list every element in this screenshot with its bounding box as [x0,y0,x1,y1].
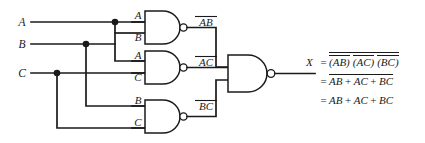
equation-3-term-3: BC [379,95,393,106]
input-label-c: C [18,67,26,79]
nand3-output-label: BC [199,100,214,112]
equation-2-term-2: AC [354,76,368,87]
nand2-input-label-c: C [134,71,142,83]
equation-1-term-1: (AB) [329,57,350,68]
equation-relation-3: = [318,95,329,106]
nand1-output-label: AB [198,16,213,28]
equation-3-operator-2: + [368,94,379,106]
nand2-output-label: AC [198,56,214,68]
nand2-body [145,51,180,84]
nand1-body [145,11,180,44]
equation-1-outer-overbar: (AB)(AC)(BC) [329,57,399,68]
equation-3-operator-1: + [342,94,353,106]
nand3-input-label-c: C [134,116,142,128]
junction-dot-c [54,70,61,77]
nand2-input-label-a: A [134,49,142,61]
equation-3-term-1: AB [329,95,342,106]
equation-lhs-x: X [306,57,318,68]
input-label-a: A [17,16,26,28]
equation-2-outer-overbar: AB+AC+BC [329,76,393,87]
input-label-b: B [18,38,25,50]
nand3-body [145,100,180,133]
equation-1-term-2: (AC) [353,57,374,68]
equation-3-expression: AB+AC+BC [329,95,393,106]
logic-circuit-figure: A B C A B AB A [0,0,425,143]
nand2-inversion-bubble [180,64,187,71]
equation-2-operator-2: + [368,75,379,87]
nand1-input-label-b: B [135,31,142,43]
junction-dot-b [83,41,90,48]
equation-line-2: = AB+AC+BC [306,76,425,95]
nand3-input-label-b: B [135,94,142,106]
equation-2-term-3: BC [379,76,393,87]
wire-branch-c-to-nand3 [57,73,145,128]
equation-line-3: = AB+AC+BC [306,95,425,114]
equation-relation-2: = [318,76,329,87]
nand3-inversion-bubble [180,113,187,120]
output-equations: X = (AB)(AC)(BC) = AB+AC+BC = AB+AC+BC [306,57,425,114]
nand4-inversion-bubble [267,70,275,78]
nand4-body [228,55,267,92]
equation-relation-1: = [318,57,329,68]
equation-2-term-1: AB [329,76,342,87]
junction-dot-a [112,19,119,26]
nand1-input-label-a: A [134,9,142,21]
equation-3-term-2: AC [354,95,368,106]
equation-line-1: X = (AB)(AC)(BC) [306,57,425,76]
nand1-inversion-bubble [180,24,187,31]
equation-1-term-3: (BC) [377,57,398,68]
equation-2-operator-1: + [342,75,353,87]
